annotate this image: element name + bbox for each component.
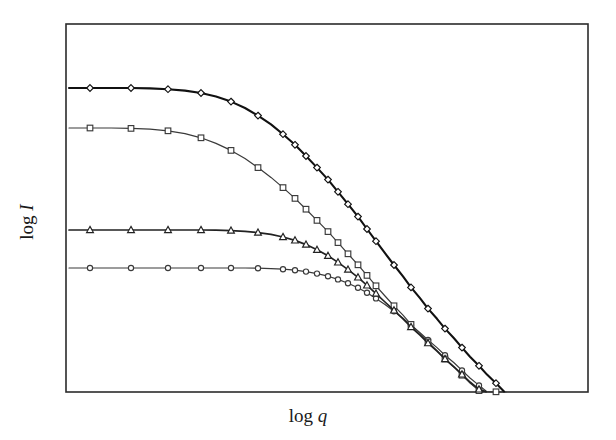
- square-marker: [335, 240, 341, 246]
- circle-marker: [280, 267, 285, 272]
- figure-container: log q log I: [0, 0, 616, 440]
- y-axis-label: log I: [16, 203, 37, 240]
- square-marker: [280, 185, 286, 191]
- circle-marker: [255, 266, 260, 271]
- square-marker: [255, 165, 261, 171]
- square-marker: [314, 218, 320, 224]
- square-marker: [303, 206, 309, 212]
- circle-marker: [314, 271, 319, 276]
- square-marker: [355, 262, 361, 268]
- square-marker: [128, 126, 134, 132]
- circle-marker: [345, 281, 350, 286]
- square-marker: [87, 125, 93, 131]
- circle-marker: [228, 265, 233, 270]
- x-axis-label: log q: [289, 405, 328, 426]
- circle-marker: [165, 265, 170, 270]
- circle-marker: [303, 269, 308, 274]
- circle-marker: [355, 285, 360, 290]
- plot-background: [0, 0, 616, 440]
- scattering-plot: log q log I: [0, 0, 616, 440]
- square-marker: [292, 196, 298, 202]
- square-marker: [493, 389, 499, 395]
- square-marker: [364, 273, 370, 279]
- circle-marker: [335, 277, 340, 282]
- circle-marker: [128, 265, 133, 270]
- circle-marker: [198, 265, 203, 270]
- circle-marker: [325, 274, 330, 279]
- square-marker: [198, 135, 204, 141]
- circle-marker: [292, 268, 297, 273]
- square-marker: [165, 128, 171, 134]
- square-marker: [345, 251, 351, 257]
- circle-marker: [364, 290, 369, 295]
- square-marker: [228, 148, 234, 154]
- circle-marker: [87, 265, 92, 270]
- square-marker: [325, 229, 331, 235]
- square-marker: [373, 283, 379, 289]
